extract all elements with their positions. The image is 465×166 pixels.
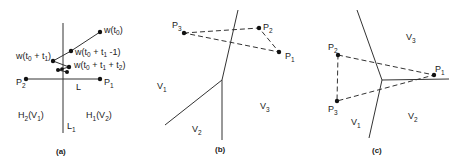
figure: w(t0) w(t0 + t1 -1) w(t0 + t1) w(t0 + t1…	[0, 0, 465, 166]
point-w-t0-t1-t2	[67, 65, 71, 69]
point-small-1	[56, 68, 60, 72]
label-V2: V2	[192, 124, 202, 136]
label-P2: P2	[263, 22, 273, 34]
label-V2: V2	[408, 111, 418, 123]
point-P3	[335, 99, 339, 103]
label-P2: P2	[328, 42, 338, 54]
voronoi-edge-left	[165, 80, 222, 125]
point-P2	[24, 77, 28, 81]
caption-a: (a)	[56, 147, 66, 156]
voronoi-edge-top	[357, 10, 382, 80]
point-w-t0-t1	[51, 59, 55, 63]
label-w-t0-t1: w(t0 + t1)	[15, 51, 51, 62]
point-small-3	[60, 67, 64, 71]
label-P1: P1	[104, 77, 114, 89]
label-V1: V1	[351, 117, 361, 129]
label-H2-V1: H2(V1)	[18, 110, 44, 122]
label-H1-V2: H1(V2)	[86, 110, 112, 122]
point-small-2	[65, 70, 69, 74]
panel-c: P2 P3 P1 V3 V1 V2 (c)	[328, 10, 449, 155]
label-w-t0-t1-t2: w(t0 + t1 + t2)	[73, 60, 125, 71]
voronoi-edge-bottom	[369, 80, 382, 138]
label-P3: P3	[328, 104, 338, 116]
panel-a: w(t0) w(t0 + t1 -1) w(t0 + t1) w(t0 + t1…	[15, 23, 125, 156]
caption-c: (c)	[372, 146, 382, 155]
caption-b: (b)	[215, 145, 226, 154]
label-w-t0-t1-minus-1: w(t0 + t1 -1)	[74, 47, 121, 58]
label-V3: V3	[406, 32, 416, 44]
label-L1: L1	[67, 121, 76, 133]
label-V1: V1	[157, 81, 167, 93]
label-P1: P1	[285, 51, 295, 63]
point-P2	[257, 26, 261, 30]
point-P3	[182, 31, 186, 35]
point-P1	[277, 50, 281, 54]
point-w-t0-t1-minus-1	[69, 49, 73, 53]
label-P3: P3	[172, 20, 182, 32]
panel-b: P3 P2 P1 V1 V3 V2 (b)	[157, 10, 295, 154]
triangle-dashed	[337, 55, 434, 101]
label-L: L	[76, 82, 81, 92]
voronoi-edge-right	[382, 79, 449, 80]
label-V3: V3	[260, 101, 270, 113]
point-w-t0	[98, 30, 102, 34]
label-P1: P1	[435, 64, 445, 76]
label-w-t0: w(t0)	[103, 25, 123, 36]
voronoi-edge-top	[222, 10, 238, 80]
point-P1	[98, 77, 102, 81]
